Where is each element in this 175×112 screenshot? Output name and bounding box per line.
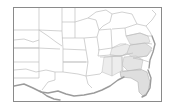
map-figure	[0, 0, 175, 112]
us-map-svg[interactable]	[0, 0, 175, 112]
